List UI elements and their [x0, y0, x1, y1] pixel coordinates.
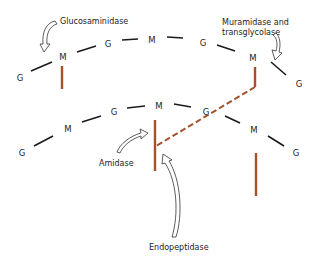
glycosidic-bond — [225, 116, 240, 123]
peptide-crosslink — [156, 87, 255, 146]
endopeptidase-arrow-icon — [162, 154, 180, 237]
muramidase-arrow-icon — [272, 33, 282, 60]
glycosidic-bond — [31, 62, 52, 71]
sugar-m: M — [250, 125, 257, 135]
glycosidic-bond — [122, 39, 138, 40]
glycosidic-bond — [34, 136, 53, 146]
sugar-g: G — [200, 38, 207, 48]
sugar-g: G — [105, 39, 112, 49]
bottom-glycan-strand: G M G M G M G — [19, 101, 300, 158]
glucosaminidase-arrow-icon — [40, 21, 57, 52]
glycosidic-bond — [77, 46, 96, 52]
peptide-chains — [62, 66, 256, 196]
sugar-m: M — [59, 52, 66, 62]
endopeptidase-label: Endopeptidase — [149, 243, 209, 252]
amidase-arrow-icon — [117, 129, 148, 153]
glucosaminidase-label: Glucosaminidase — [60, 17, 128, 26]
amidase-label: Amidase — [99, 159, 134, 168]
top-glycan-strand: G M G M G M G — [17, 35, 303, 89]
sugar-g: G — [296, 79, 303, 89]
glycosidic-bond — [167, 37, 183, 38]
glycosidic-bond — [217, 45, 235, 51]
glycosidic-bond — [268, 136, 284, 146]
glycosidic-bond — [271, 62, 286, 75]
sugar-m: M — [249, 53, 256, 63]
glycosidic-bond — [127, 106, 145, 108]
sugar-g: G — [17, 73, 24, 83]
glycosidic-bond — [174, 104, 191, 107]
sugar-m: M — [148, 35, 155, 45]
sugar-m: M — [64, 124, 71, 134]
transglycolase-label: transglycolase — [222, 28, 280, 37]
sugar-g: G — [293, 148, 300, 158]
muramidase-label: Muramidase and — [222, 18, 289, 27]
sugar-g: G — [111, 107, 118, 117]
sugar-g: G — [19, 148, 26, 158]
sugar-m: M — [155, 101, 162, 111]
peptidoglycan-diagram: G M G M G M G G M G M G M G Glucos — [0, 0, 317, 264]
glycosidic-bond — [82, 116, 101, 122]
